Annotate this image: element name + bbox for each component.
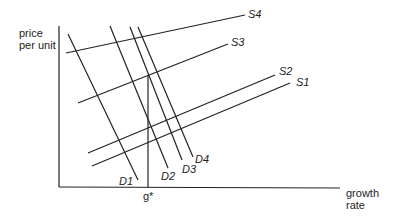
g-star-label: g* [143,190,153,202]
x-axis-label-line1: growth [346,187,379,199]
demand-curve-d1 [68,34,138,180]
supply-label-s4: S4 [248,8,261,20]
demand-label-d2: D2 [161,170,175,182]
supply-curve-s3 [78,44,228,103]
demand-curve-d4 [138,27,193,157]
x-axis [59,187,340,188]
supply-curve-s2 [88,75,275,153]
demand-label-d4: D4 [195,153,209,165]
supply-label-s1: S1 [296,76,309,88]
demand-label-d1: D1 [119,175,133,187]
y-axis-label-line2: per unit [19,39,56,51]
y-axis-label-line1: price [19,27,56,39]
x-axis-label-line2: rate [346,199,379,211]
supply-demand-diagram [0,0,394,217]
supply-label-s3: S3 [231,36,244,48]
x-axis-label: growth rate [346,187,379,211]
demand-label-d3: D3 [182,163,196,175]
y-axis-label: price per unit [19,27,56,51]
supply-label-s2: S2 [279,65,292,77]
